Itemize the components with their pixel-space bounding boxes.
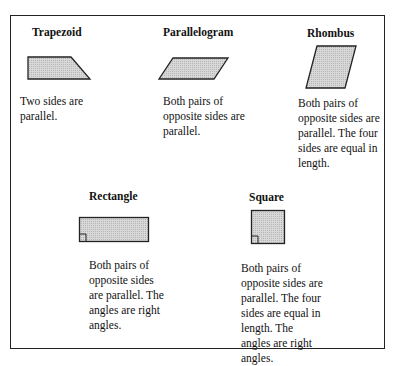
rhombus-description: Both pairs of opposite sides are paralle…: [298, 96, 380, 171]
trapezoid-title: Trapezoid: [32, 26, 82, 38]
rectangle-description: Both pairs of opposite sides are paralle…: [89, 258, 169, 333]
rhombus-shape-icon: [305, 45, 357, 89]
rhombus-title: Rhombus: [307, 27, 354, 39]
parallelogram-title: Parallelogram: [163, 26, 233, 38]
trapezoid-shape-icon: [27, 56, 92, 80]
square-title: Square: [249, 191, 284, 203]
rectangle-title: Rectangle: [89, 190, 138, 202]
trapezoid-description: Two sides are parallel.: [20, 94, 115, 124]
square-shape-icon: [251, 210, 286, 245]
square-description: Both pairs of opposite sides are paralle…: [241, 261, 323, 366]
parallelogram-description: Both pairs of opposite sides are paralle…: [163, 94, 253, 139]
parallelogram-shape-icon: [158, 57, 230, 80]
rectangle-shape-icon: [79, 217, 149, 242]
